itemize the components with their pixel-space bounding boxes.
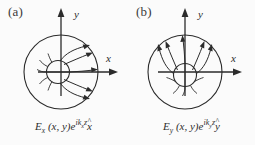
field-line-right-5 xyxy=(60,83,86,98)
field-arrowhead-up-4 xyxy=(200,41,205,48)
field-line-right-4 xyxy=(64,80,89,91)
field-line-bottom-3 xyxy=(191,86,198,94)
caption-b-exponent: ikyz xyxy=(203,118,215,127)
caption-a-field-symbol: E xyxy=(35,120,42,132)
x-axis-arrowhead xyxy=(109,69,118,76)
caption-b-unit-vector-wrap: ^y xyxy=(215,120,220,132)
panel-b-x-axis-label: x xyxy=(230,52,236,64)
field-line-bottom-2 xyxy=(173,86,180,94)
panel-a-diagram: y x xyxy=(0,0,127,118)
panel-b-caption: Ey (x, y)eikyz^y xyxy=(128,118,255,135)
field-line-up-4 xyxy=(193,45,204,70)
field-arrowhead-right-4 xyxy=(86,87,93,92)
field-line-left-2 xyxy=(40,60,48,67)
y-axis-arrowhead xyxy=(182,8,189,17)
field-line-up-1 xyxy=(159,48,174,74)
figure-container: (a) xyxy=(0,0,255,145)
panel-b-diagram: y x xyxy=(128,0,255,118)
caption-a-unit-vector-wrap: ^x xyxy=(87,120,92,132)
panel-b: (b) xyxy=(128,0,255,145)
panel-a: (a) xyxy=(0,0,127,145)
caption-b-unit-vector-hat: ^ xyxy=(215,118,220,126)
field-arrowhead-up-2 xyxy=(166,41,171,48)
field-line-left-4 xyxy=(48,54,52,63)
caption-b-field-symbol: E xyxy=(163,120,170,132)
caption-a-arguments: (x, y) xyxy=(48,120,71,132)
panel-b-y-axis-label: y xyxy=(197,8,203,20)
field-line-left-3 xyxy=(40,78,48,85)
panel-a-y-axis-label: y xyxy=(73,8,79,20)
field-line-right-2 xyxy=(64,54,89,65)
x-axis-arrowhead xyxy=(233,69,242,76)
field-line-up-5 xyxy=(196,48,211,74)
panel-a-caption: Ex (x, y)eikxz^x xyxy=(0,118,127,135)
y-axis-arrowhead xyxy=(58,8,65,17)
caption-a-unit-vector-hat: ^ xyxy=(87,118,92,126)
field-arrowhead-right-2 xyxy=(86,53,93,58)
panel-a-x-axis-label: x xyxy=(105,52,111,64)
field-line-right-1 xyxy=(60,46,86,61)
field-line-up-2 xyxy=(167,45,178,70)
caption-a-exponent: ikxz xyxy=(75,118,87,127)
caption-b-arguments: (x, y) xyxy=(176,120,199,132)
field-line-left-5 xyxy=(48,82,52,91)
